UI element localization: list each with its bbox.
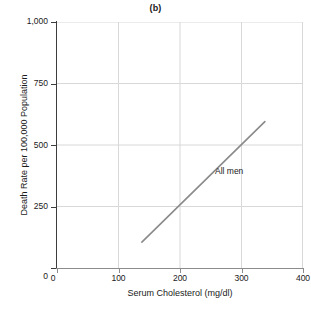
x-tick-mark-0 (57, 269, 58, 273)
x-tick-label-300: 300 (222, 274, 262, 283)
y-tick-mark-0 (51, 268, 56, 269)
y-tick-mark-250 (51, 207, 56, 208)
x-tick-label-400: 400 (283, 274, 311, 283)
plot-area (57, 22, 303, 268)
chart-title: (b) (0, 3, 311, 13)
y-axis-title: Death Rate per 100,000 Population (19, 15, 29, 275)
x-axis-title: Serum Cholesterol (mg/dl) (57, 288, 303, 298)
y-tick-mark-750 (51, 84, 56, 85)
x-tick-label-200: 200 (160, 274, 200, 283)
y-tick-mark-1000 (51, 22, 56, 23)
chart-figure: (b) 1,000 750 500 250 0 (0, 0, 311, 315)
x-tick-label-100: 100 (99, 274, 139, 283)
y-axis-line (56, 21, 57, 269)
series-annotation-all-men: All men (215, 166, 243, 176)
x-tick-label-0: 0 (33, 274, 73, 283)
y-tick-mark-500 (51, 145, 56, 146)
series-all-men-line (57, 22, 303, 268)
